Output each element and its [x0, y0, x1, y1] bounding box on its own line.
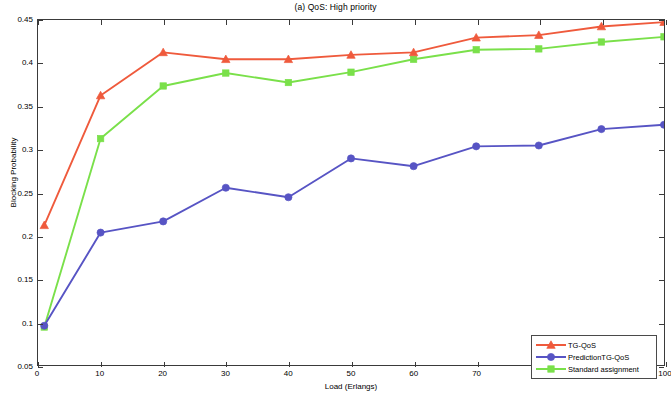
legend-item[interactable]: Standard assignment — [536, 363, 653, 375]
y-tick-mark — [659, 324, 664, 325]
series-standard-assignment — [41, 34, 664, 331]
x-tick-label: 50 — [347, 369, 356, 378]
data-point-marker — [97, 229, 104, 236]
x-tick-mark — [38, 20, 39, 25]
chart-title: (a) QoS: High priority — [0, 2, 671, 12]
data-point-marker — [547, 341, 555, 349]
y-tick-label: 0.4 — [22, 58, 33, 67]
y-tick-mark — [38, 280, 43, 281]
x-tick-mark — [415, 20, 416, 25]
x-tick-mark — [666, 362, 667, 367]
x-tick-mark — [666, 20, 667, 25]
x-tick-label: 10 — [95, 369, 104, 378]
x-tick-label: 20 — [158, 369, 167, 378]
y-tick-label: 0.05 — [17, 362, 33, 371]
x-tick-mark — [478, 20, 479, 25]
x-tick-mark — [289, 362, 290, 367]
x-tick-mark — [415, 362, 416, 367]
data-point-marker — [661, 34, 664, 40]
series-predictiontg-qos — [41, 121, 664, 329]
chart-legend: TG-QoSPredictionTG-QoSStandard assignmen… — [531, 335, 657, 379]
y-tick-mark — [38, 150, 43, 151]
legend-label: PredictionTG-QoS — [566, 353, 629, 362]
chart-figure: (a) QoS: High priority Blocking Probabil… — [0, 0, 671, 400]
x-axis-label: Load (Erlangs) — [37, 382, 665, 391]
data-point-marker — [160, 83, 166, 89]
x-tick-label: 40 — [284, 369, 293, 378]
legend-swatch-square-icon — [536, 363, 566, 375]
x-tick-mark — [352, 362, 353, 367]
y-tick-mark — [38, 63, 43, 64]
data-point-marker — [473, 47, 479, 53]
plot-area — [37, 19, 665, 366]
x-tick-mark — [226, 20, 227, 25]
data-point-marker — [223, 70, 229, 76]
y-tick-label: 0.2 — [22, 231, 33, 240]
y-tick-mark — [38, 107, 43, 108]
legend-label: TG-QoS — [566, 341, 596, 350]
y-tick-label: 0.15 — [17, 275, 33, 284]
data-point-marker — [598, 39, 604, 45]
data-point-marker — [40, 221, 48, 229]
y-tick-label: 0.1 — [22, 318, 33, 327]
y-tick-mark — [659, 367, 664, 368]
y-tick-mark — [659, 280, 664, 281]
x-tick-mark — [603, 20, 604, 25]
x-tick-mark — [101, 20, 102, 25]
y-tick-mark — [659, 194, 664, 195]
legend-label: Standard assignment — [566, 365, 639, 374]
data-point-marker — [473, 143, 480, 150]
series-line — [44, 37, 664, 327]
data-point-marker — [548, 366, 554, 372]
y-tick-mark — [659, 150, 664, 151]
y-tick-mark — [659, 237, 664, 238]
y-tick-mark — [38, 237, 43, 238]
data-point-marker — [410, 56, 416, 62]
data-point-marker — [285, 194, 292, 201]
y-tick-mark — [38, 194, 43, 195]
x-tick-mark — [478, 362, 479, 367]
x-tick-mark — [289, 20, 290, 25]
data-point-marker — [97, 135, 103, 141]
data-point-marker — [598, 126, 605, 133]
y-tick-mark — [659, 20, 664, 21]
series-line — [44, 22, 664, 225]
x-tick-mark — [38, 362, 39, 367]
series-tg-qos — [40, 20, 664, 229]
y-tick-label: 0.35 — [17, 101, 33, 110]
series-line — [44, 125, 664, 326]
x-tick-mark — [101, 362, 102, 367]
x-tick-mark — [352, 20, 353, 25]
x-tick-mark — [226, 362, 227, 367]
x-tick-mark — [540, 20, 541, 25]
data-point-marker — [535, 142, 542, 149]
x-tick-label: 30 — [221, 369, 230, 378]
data-point-marker — [347, 155, 354, 162]
data-point-marker — [160, 218, 167, 225]
data-point-marker — [410, 163, 417, 170]
data-point-marker — [348, 69, 354, 75]
x-tick-mark — [164, 20, 165, 25]
x-tick-label: 70 — [472, 369, 481, 378]
y-tick-mark — [38, 367, 43, 368]
y-tick-mark — [659, 63, 664, 64]
y-tick-mark — [38, 324, 43, 325]
y-tick-label: 0.25 — [17, 188, 33, 197]
data-point-marker — [660, 121, 664, 128]
x-tick-label: 0 — [35, 369, 39, 378]
x-tick-mark — [164, 362, 165, 367]
y-axis-tick-labels: 0.050.10.150.20.250.30.350.40.45 — [0, 19, 33, 366]
data-point-marker — [536, 46, 542, 52]
x-tick-label: 100 — [658, 369, 671, 378]
y-tick-label: 0.3 — [22, 145, 33, 154]
series-lines — [38, 20, 664, 365]
x-tick-label: 60 — [409, 369, 418, 378]
data-point-marker — [547, 353, 554, 360]
y-tick-mark — [659, 107, 664, 108]
data-point-marker — [285, 79, 291, 85]
data-point-marker — [222, 184, 229, 191]
y-tick-label: 0.45 — [17, 15, 33, 24]
